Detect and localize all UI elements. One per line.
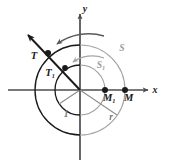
label-S: S [119, 43, 124, 53]
figure-canvas: x y [0, 0, 169, 168]
label-M1: M1 [102, 92, 115, 104]
y-axis-label: y [82, 3, 88, 14]
label-M1-base: M [102, 92, 113, 103]
label-M: M [123, 92, 134, 103]
label-T: T [31, 50, 38, 61]
label-S1: S1 [97, 60, 105, 71]
geometry-figure: x y [0, 0, 169, 168]
label-T1-subscript: 1 [52, 72, 55, 79]
label-unit-radius: 1 [64, 109, 69, 119]
point-T[interactable] [45, 50, 51, 56]
label-M1-subscript: 1 [112, 97, 115, 104]
point-T1[interactable] [62, 65, 68, 71]
axes-group: x y [8, 3, 158, 160]
x-axis-label: x [152, 84, 158, 95]
label-outer-radius: r [109, 112, 113, 122]
label-S1-subscript: 1 [102, 64, 105, 71]
label-T1: T1 [45, 67, 55, 79]
unit-radius-line [59, 90, 80, 104]
